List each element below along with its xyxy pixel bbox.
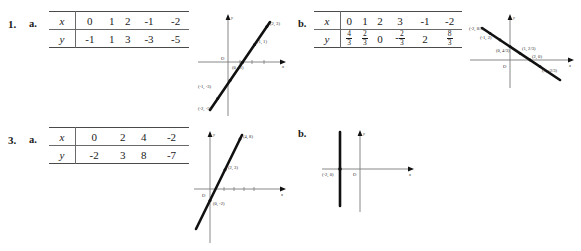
x-axis-arrow [568,58,574,63]
x-axis-arrow [280,187,286,192]
cell-x-0: 0 [76,128,113,146]
cell-x-0: 0 [76,12,104,30]
cell-x-3: -2 [154,128,189,146]
point-label: (0, 4/3) [496,48,510,54]
cell-y-1: 23 [357,30,372,48]
data-point [519,52,522,55]
row-header-x: x [49,12,76,30]
cell-y-3: -23 [387,30,412,48]
fraction-denominator: 3 [346,39,352,47]
origin-label: O [221,56,225,61]
x-axis-label: x [281,64,284,69]
data-point [539,65,542,68]
y-axis-label: y [212,132,216,137]
part-label-1b: b. [298,18,306,29]
point-label: (1, 1) [257,39,267,45]
cell-y-4: -5 [162,30,189,48]
table-3a: x 0 2 4 -2 y -2 3 8 -7 [49,127,189,164]
cell-y-1: 3 [112,146,133,164]
cell-y-2: 0 [373,30,388,48]
x-axis-arrow [408,167,414,172]
y-axis-label: y [230,15,234,20]
cell-x-0: 0 [341,12,358,30]
cell-y-3: -7 [154,146,189,164]
fraction-denominator: 3 [362,39,368,47]
data-point [499,39,502,42]
cell-y-0: 43 [341,30,358,48]
cell-y-3: -3 [136,30,163,48]
table-1a: x 0 1 2 -1 -2 y -1 1 3 -3 -5 [49,11,189,48]
table-bottom-rule [49,164,189,165]
table-bottom-rule [314,48,462,49]
origin-label: O [353,172,357,177]
graph-1a: (2, 3) (1, 1) (0, -1) (-1, -3) (-2, -5) … [196,6,288,118]
table-row: y -1 1 3 -3 -5 [49,30,189,48]
table-row: y -2 3 8 -7 [49,146,189,164]
y-axis-arrow [208,131,213,137]
data-point [229,79,232,82]
data-point [253,43,256,46]
x-axis-label: x [408,172,411,177]
point-label: (-2, 0) [322,172,334,178]
origin-label: O [503,64,507,69]
cell-y-0: -1 [76,30,104,48]
part-label-1a: a. [29,18,37,29]
table-row: x 0 1 2 3 -1 -2 [314,12,462,30]
origin-label: O [202,193,206,198]
cell-x-4: -1 [413,12,438,30]
cell-y-0: -2 [76,146,113,164]
problem-number-3: 3. [8,134,16,146]
y-axis-label: y [512,15,516,20]
row-header-x: x [49,128,76,146]
table-row: x 0 1 2 -1 -2 [49,12,189,30]
data-point [529,59,532,62]
cell-x-2: 2 [373,12,388,30]
y-axis-arrow [508,14,513,20]
data-point [239,138,242,141]
fraction-denominator: 3 [447,39,453,47]
table-row: x 0 2 4 -2 [49,128,189,146]
x-axis-label: x [280,192,283,197]
data-point [216,97,219,100]
point-label: (-1, 2) [480,35,492,41]
cell-x-5: -2 [437,12,462,30]
cell-y-2: 3 [120,30,136,48]
point-label: (1, 2/3) [522,46,536,52]
cell-y-2: 8 [133,146,154,164]
graph-3b: (-2, 0) O x y [320,124,450,224]
row-header-x: x [314,12,341,30]
cell-x-2: 4 [133,128,154,146]
cell-y-4: 2 [413,30,438,48]
table-row: y 43 23 0 -23 2 83 [314,30,462,48]
point-label: (-1, -3) [198,84,211,90]
table-bottom-rule [49,48,189,49]
y-axis-arrow [226,14,231,20]
table-1b: x 0 1 2 3 -1 -2 y 43 23 0 -23 2 83 [314,11,462,48]
point-label: (0, -2) [213,201,225,207]
row-header-y: y [49,146,76,164]
point-label: (2, 3) [270,21,280,27]
data-point [338,167,342,171]
fraction-denominator: 3 [399,39,405,47]
cell-x-3: 3 [387,12,412,30]
data-point [265,25,268,28]
graph-1b: (-2, 8/3) (-1, 2) (0, 4/3) (1, 2/3) (2, … [468,8,578,92]
row-header-y: y [49,30,76,48]
y-axis-label: y [362,131,366,136]
part-label-3a: a. [29,134,37,145]
cell-x-1: 1 [357,12,372,30]
cell-x-4: -2 [162,12,189,30]
cell-y-1: 1 [104,30,120,48]
cell-x-1: 2 [112,128,133,146]
data-point [241,61,244,64]
line-graph-3a [196,135,242,229]
point-label: (4, 8) [243,134,253,140]
problem-number-1: 1. [8,18,16,30]
graph-3a: (4, 8) (2, 3) (0, -2) O x y [192,121,297,246]
part-label-3b: b. [298,128,306,139]
point-label: (-2, 8/3) [469,26,485,32]
cell-x-1: 1 [104,12,120,30]
cell-x-2: 2 [120,12,136,30]
cell-y-5: 83 [437,30,462,48]
point-label: (2, 3) [228,165,238,171]
